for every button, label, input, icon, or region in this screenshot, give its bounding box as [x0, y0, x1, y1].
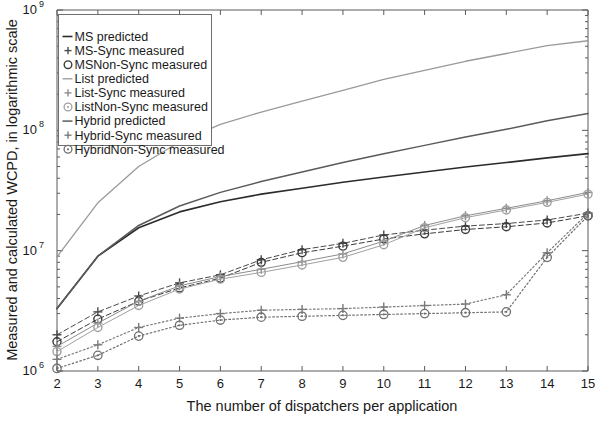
legend-item[interactable]: Hybrid predicted [63, 114, 166, 128]
x-tick-label: 7 [258, 376, 265, 391]
legend-label: Hybrid predicted [75, 114, 166, 128]
legend-item[interactable]: List-Sync measured [65, 86, 186, 100]
x-tick-label: 14 [540, 376, 554, 391]
legend-label: ListNon-Sync measured [75, 100, 208, 114]
legend-label: List predicted [75, 72, 149, 86]
legend-item[interactable]: MS-Sync measured [65, 44, 185, 58]
chart-svg: 23456789101112131415 106107108109 The nu… [0, 0, 610, 421]
chart-figure: 23456789101112131415 106107108109 The nu… [0, 0, 610, 421]
y-tick-label-base: 10 [23, 243, 37, 258]
legend-item[interactable]: MS predicted [63, 30, 149, 44]
x-tick-label: 5 [176, 376, 183, 391]
legend-label: MSNon-Sync measured [75, 58, 208, 72]
x-tick-label: 10 [377, 376, 391, 391]
legend-label: MS-Sync measured [75, 44, 185, 58]
y-tick-label-base: 10 [23, 2, 37, 17]
y-tick-label-base: 10 [23, 122, 37, 137]
x-tick-label: 13 [499, 376, 513, 391]
y-tick-label-base: 10 [23, 363, 37, 378]
x-tick-label: 3 [94, 376, 101, 391]
y-tick-label-exponent: 8 [39, 119, 44, 129]
legend-item[interactable]: Hybrid-Sync measured [65, 129, 202, 143]
x-tick-label: 2 [53, 376, 60, 391]
chart-legend: MS predictedMS-Sync measuredMSNon-Sync m… [59, 15, 225, 157]
legend-label: MS predicted [75, 30, 149, 44]
x-axis-title: The number of dispatchers per applicatio… [187, 398, 458, 414]
y-tick-label-exponent: 9 [39, 0, 44, 9]
y-axis-title: Measured and calculated WCPD, in logarit… [4, 19, 20, 361]
legend-label: List-Sync measured [75, 86, 186, 100]
y-tick-label-exponent: 6 [39, 360, 44, 370]
x-tick-label: 12 [458, 376, 472, 391]
x-tick-label: 11 [418, 376, 432, 391]
legend-item[interactable]: ListNon-Sync measured [64, 100, 208, 114]
x-tick-label: 4 [135, 376, 142, 391]
y-tick-label-exponent: 7 [39, 240, 44, 250]
x-tick-label: 6 [217, 376, 224, 391]
x-tick-label: 8 [298, 376, 305, 391]
x-tick-label: 9 [339, 376, 346, 391]
x-tick-label: 15 [581, 376, 595, 391]
legend-item[interactable]: List predicted [63, 72, 149, 86]
legend-item[interactable]: MSNon-Sync measured [64, 58, 207, 72]
legend-item[interactable]: HybridNon-Sync measured [64, 143, 225, 157]
legend-label: Hybrid-Sync measured [75, 129, 202, 143]
legend-label: HybridNon-Sync measured [75, 143, 225, 157]
